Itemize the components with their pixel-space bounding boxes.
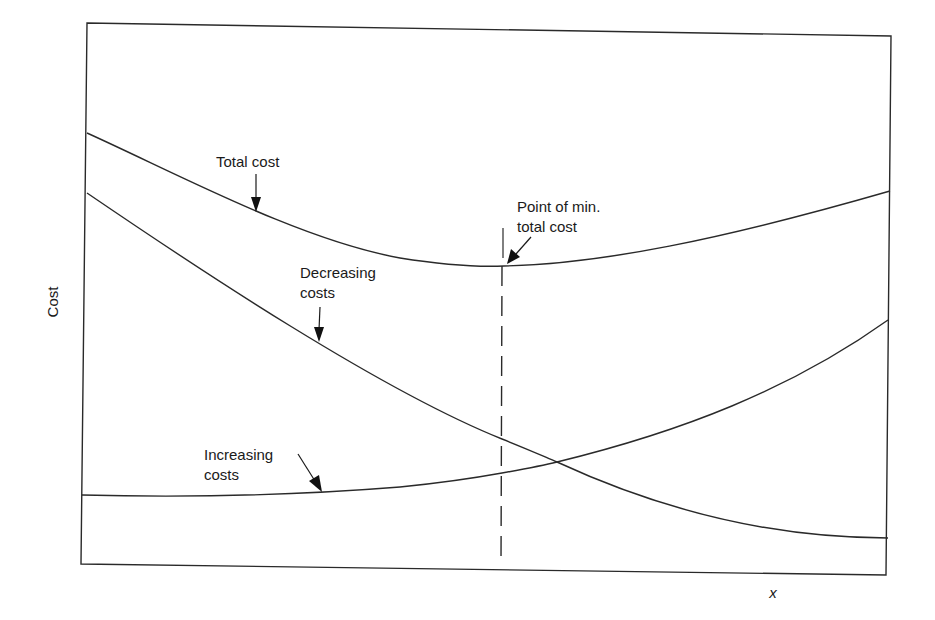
decreasing-costs-label-line2: costs [300,284,335,301]
increasing-costs-label-line2: costs [204,466,239,483]
increasing-costs-label-line1: Increasing [204,446,273,463]
decreasing-costs-curve [87,193,888,538]
min-point-label-line2: total cost [517,218,578,235]
y-axis-label: Cost [44,286,61,318]
total-cost-curve [87,133,890,266]
decreasing-costs-label-line1: Decreasing [300,264,376,281]
plot-frame [81,23,891,575]
cost-diagram: Total cost Decreasing costs Increasing c… [0,0,935,620]
decreasing-costs-arrow-icon [314,307,324,342]
min-point-arrow-icon [507,237,531,264]
min-point-label-line1: Point of min. [517,198,600,215]
increasing-costs-curve [82,320,888,496]
x-axis-label: x [768,584,777,601]
total-cost-label: Total cost [216,153,280,170]
total-cost-arrow-icon [251,174,261,212]
increasing-costs-arrow-icon [298,454,322,492]
min-total-cost-dashed-line [501,266,502,565]
